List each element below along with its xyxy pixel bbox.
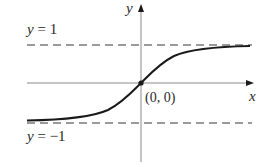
asymptote-bottom-label: y = −1 (25, 128, 66, 144)
x-axis-label: x (248, 88, 256, 104)
origin-label: (0, 0) (145, 90, 176, 106)
sigmoid-figure: y = 1 y = −1 (0, 0) x y (0, 0, 266, 167)
plot-canvas: y = 1 y = −1 (0, 0) x y (0, 0, 266, 167)
y-axis-label: y (124, 0, 133, 16)
asymptote-top-label: y = 1 (25, 21, 57, 37)
origin-point (138, 80, 143, 85)
